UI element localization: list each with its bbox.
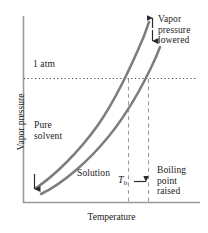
x-axis-label: Temperature: [23, 212, 200, 222]
tb-label: Tb: [118, 175, 127, 187]
vapor-pressure-diagram: Vapor pressure Temperature 1 atm Pure so…: [0, 0, 208, 233]
tb-symbol: T: [118, 174, 124, 185]
vapor-pressure-lowered-label: Vapor pressure lowered: [158, 14, 190, 46]
tb-subscript: b: [124, 179, 128, 187]
y-axis-label: Vapor pressure: [16, 72, 26, 172]
solution-label: Solution: [77, 168, 110, 179]
boiling-point-raised-label: Boiling point raised: [157, 165, 186, 197]
one-atm-label: 1 atm: [33, 59, 55, 70]
pure-solvent-label: Pure solvent: [34, 120, 62, 141]
